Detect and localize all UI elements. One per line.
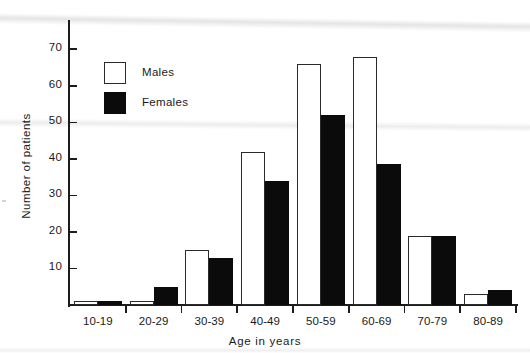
bar-chart-figure: Number of patients 10203040506070 10-192… bbox=[0, 0, 530, 353]
y-tick-20 bbox=[70, 231, 77, 233]
bar-females-80-89 bbox=[488, 290, 512, 305]
bar-males-40-49 bbox=[241, 152, 265, 305]
y-tick-70 bbox=[70, 48, 77, 50]
y-tick-label-10: 10 bbox=[34, 260, 62, 272]
scan-artifact-speck bbox=[2, 200, 6, 202]
y-axis-line bbox=[68, 20, 70, 307]
y-tick-10 bbox=[70, 268, 77, 270]
bar-males-60-69 bbox=[353, 57, 377, 305]
scan-artifact-top-line bbox=[0, 13, 530, 33]
x-group-label-20-29: 20-29 bbox=[124, 315, 184, 327]
bar-females-60-69 bbox=[377, 164, 401, 305]
legend-swatch-females-icon bbox=[104, 92, 126, 114]
x-tick-1 bbox=[125, 306, 127, 313]
legend-label-males: Males bbox=[142, 66, 174, 78]
y-tick-50 bbox=[70, 122, 77, 124]
x-tick-6 bbox=[404, 306, 406, 313]
x-tick-2 bbox=[181, 306, 183, 313]
y-tick-label-wrap-70: 70 bbox=[30, 41, 62, 55]
x-tick-7 bbox=[459, 306, 461, 313]
bar-females-70-79 bbox=[432, 236, 456, 305]
x-group-label-40-49: 40-49 bbox=[235, 315, 295, 327]
x-tick-4 bbox=[292, 306, 294, 313]
y-tick-label-60: 60 bbox=[34, 78, 62, 90]
legend-row-females: Females bbox=[104, 92, 234, 122]
x-tick-8 bbox=[515, 306, 517, 313]
bar-males-80-89 bbox=[464, 294, 488, 305]
y-tick-label-wrap-60: 60 bbox=[30, 78, 62, 92]
y-tick-label-wrap-50: 50 bbox=[30, 114, 62, 128]
y-tick-30 bbox=[70, 195, 77, 197]
bar-females-30-39 bbox=[209, 258, 233, 306]
y-tick-label-wrap-20: 20 bbox=[30, 224, 62, 238]
bar-females-20-29 bbox=[154, 287, 178, 305]
y-tick-label-40: 40 bbox=[34, 151, 62, 163]
scan-artifact-mid-line bbox=[0, 118, 530, 132]
bar-males-70-79 bbox=[408, 236, 432, 305]
chart-legend: Males Females bbox=[104, 62, 234, 122]
bar-males-30-39 bbox=[185, 250, 209, 305]
x-group-label-70-79: 70-79 bbox=[402, 315, 462, 327]
bar-females-10-19 bbox=[98, 301, 122, 305]
legend-row-males: Males bbox=[104, 62, 234, 92]
legend-swatch-males-icon bbox=[104, 62, 126, 84]
x-group-label-60-69: 60-69 bbox=[347, 315, 407, 327]
bar-females-40-49 bbox=[265, 181, 289, 305]
y-tick-label-70: 70 bbox=[34, 41, 62, 53]
scan-artifact-bottom-edge bbox=[0, 347, 530, 353]
y-tick-label-50: 50 bbox=[34, 114, 62, 126]
bar-males-20-29 bbox=[130, 301, 154, 305]
y-tick-label-20: 20 bbox=[34, 224, 62, 236]
y-tick-40 bbox=[70, 158, 77, 160]
y-tick-label-wrap-10: 10 bbox=[30, 260, 62, 274]
x-tick-3 bbox=[236, 306, 238, 313]
y-tick-60 bbox=[70, 85, 77, 87]
bar-males-10-19 bbox=[74, 301, 98, 305]
bar-females-50-59 bbox=[321, 115, 345, 305]
bar-males-50-59 bbox=[297, 64, 321, 305]
y-tick-label-30: 30 bbox=[34, 187, 62, 199]
legend-label-females: Females bbox=[142, 96, 188, 108]
y-tick-label-wrap-40: 40 bbox=[30, 151, 62, 165]
x-group-label-30-39: 30-39 bbox=[179, 315, 239, 327]
x-group-label-10-19: 10-19 bbox=[68, 315, 128, 327]
x-tick-5 bbox=[348, 306, 350, 313]
y-tick-label-wrap-30: 30 bbox=[30, 187, 62, 201]
x-axis-title: Age in years bbox=[0, 335, 530, 347]
x-group-label-80-89: 80-89 bbox=[458, 315, 518, 327]
x-group-label-50-59: 50-59 bbox=[291, 315, 351, 327]
